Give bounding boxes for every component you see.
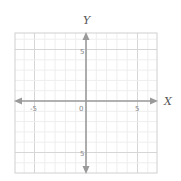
y-tick-label-neg5: 5 (80, 150, 84, 158)
x-axis-title: X (163, 95, 173, 108)
x-tick-label-neg5: -5 (30, 105, 37, 113)
y-axis-title: Y (83, 14, 92, 27)
x-tick-label-5: 5 (135, 105, 139, 113)
origin-label: 0 (79, 105, 83, 113)
y-tick-label-5: 5 (80, 48, 84, 56)
coordinate-plane: -5 0 5 5 5 Y X (0, 0, 181, 181)
